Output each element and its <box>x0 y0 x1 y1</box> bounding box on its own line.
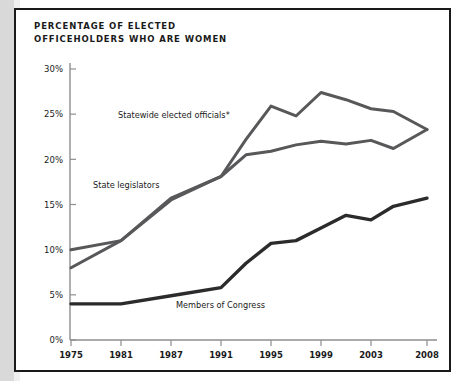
x-tick-label: 1999 <box>309 350 333 360</box>
plot-area: 0%5%10%15%20%25%30% 19751981198719911995… <box>0 0 461 381</box>
data-series-group <box>71 92 427 303</box>
series-label-state-legislators: State legislators <box>93 180 159 190</box>
chart-svg: 0%5%10%15%20%25%30% 19751981198719911995… <box>0 0 461 381</box>
x-tick-label: 1991 <box>209 350 233 360</box>
series-label-members-of-congress: Members of Congress <box>176 300 265 310</box>
series-line-members-of-congress <box>71 198 427 304</box>
x-tick-label: 1975 <box>59 350 83 360</box>
y-tick-label: 5% <box>50 290 64 300</box>
y-tick-label: 10% <box>44 245 63 255</box>
x-tick-label: 1981 <box>109 350 133 360</box>
y-tick-label: 20% <box>44 155 63 165</box>
y-tick-label: 0% <box>50 335 64 345</box>
x-tick-label: 1995 <box>259 350 283 360</box>
series-line-state-legislators <box>71 130 427 268</box>
x-axis-ticks: 19751981198719911995199920032008 <box>59 340 439 360</box>
y-tick-label: 25% <box>44 109 63 119</box>
x-tick-label: 2003 <box>359 350 383 360</box>
y-tick-label: 30% <box>44 64 63 74</box>
series-label-statewide: Statewide elected officials* <box>118 110 230 120</box>
y-tick-label: 15% <box>44 200 63 210</box>
x-tick-label: 1987 <box>159 350 183 360</box>
chart-figure: PERCENTAGE OF ELECTED OFFICEHOLDERS WHO … <box>0 0 461 381</box>
x-tick-label: 2008 <box>415 350 439 360</box>
